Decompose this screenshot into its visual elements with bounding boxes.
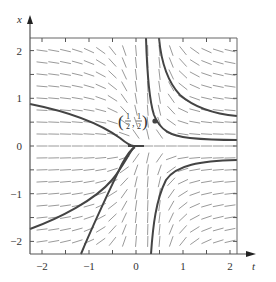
x-tick-label: 1 [17,92,23,104]
x-tick-label: 0 [17,140,23,152]
svg-text:1: 1 [137,112,141,121]
t-axis-arrow-icon [246,251,256,257]
svg-text:): ) [142,112,148,131]
x-axis-arrow-icon [27,15,33,24]
svg-text:,: , [132,117,135,128]
svg-text:2: 2 [126,122,130,131]
direction-field-plot: ( 1 2 , 1 2 ) −2−1012210−1−2 x t [0,0,276,282]
svg-text:2: 2 [137,122,141,131]
svg-text:(: ( [118,112,124,131]
t-tick-label: 2 [227,260,233,272]
equilibrium-point [152,118,157,123]
t-tick-label: −1 [83,260,95,272]
t-tick-label: 0 [133,260,139,272]
solution-curve-lower-right [151,160,237,254]
x-axis-label: x [16,13,22,25]
t-axis-label: t [252,260,256,272]
x-tick-label: −1 [10,188,22,200]
t-tick-label: −2 [36,260,48,272]
x-tick-label: 2 [17,45,23,57]
equilibrium-label: ( 1 2 , 1 2 ) [118,112,148,131]
x-tick-label: −2 [10,235,22,247]
t-tick-label: 1 [180,260,186,272]
svg-text:1: 1 [126,112,130,121]
